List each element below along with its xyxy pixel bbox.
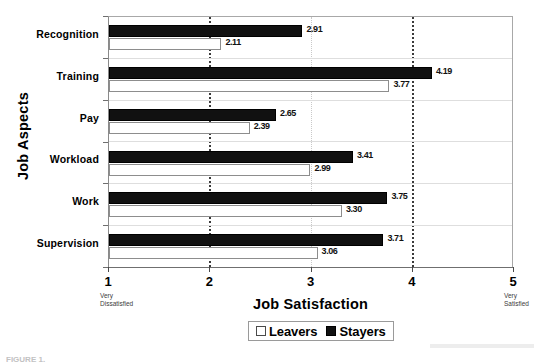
y-axis-tick (103, 58, 108, 59)
bar-value-label-leavers: 3.06 (322, 245, 338, 257)
y-tick-label-workload: Workload (50, 153, 99, 165)
bar-value-label-leavers: 2.11 (225, 36, 240, 48)
y-tick-label-work: Work (72, 195, 99, 207)
legend-label-leavers: Leavers (269, 324, 317, 339)
bar-leavers[interactable] (109, 247, 318, 259)
y-tick-label-pay: Pay (80, 112, 99, 124)
x-axis-tick-4 (412, 267, 413, 272)
bar-value-label-stayers: 2.65 (280, 107, 296, 119)
bar-leavers[interactable] (109, 205, 342, 217)
bar-group: 2.652.39 (109, 101, 512, 143)
scan-artifact (430, 344, 534, 348)
x-axis-tick-1 (108, 267, 109, 272)
legend-entry-leavers[interactable]: Leavers (256, 324, 317, 339)
legend-swatch-stayers-icon (326, 326, 336, 336)
legend-swatch-leavers-icon (256, 326, 266, 336)
bar-stayers[interactable] (109, 25, 302, 37)
bar-value-label-stayers: 3.41 (357, 149, 373, 161)
chart-figure: Job Aspects RecognitionTrainingPayWorklo… (0, 0, 540, 363)
x-axis-tick-5 (513, 267, 514, 272)
bar-value-label-stayers: 3.75 (391, 190, 407, 202)
bar-value-label-stayers: 2.91 (306, 23, 322, 35)
y-tick-label-supervision: Supervision (37, 237, 99, 249)
x-tick-label-1: 1 (104, 274, 111, 289)
x-tick-label-5: 5 (509, 274, 516, 289)
x-axis-tick-2 (209, 267, 210, 272)
y-axis-tick (103, 225, 108, 226)
x-axis-title: Job Satisfaction (108, 296, 513, 312)
y-axis-tick (103, 142, 108, 143)
y-axis-tick (103, 100, 108, 101)
legend-entry-stayers[interactable]: Stayers (326, 324, 385, 339)
bar-value-label-leavers: 2.99 (314, 162, 330, 174)
bar-stayers[interactable] (109, 67, 432, 79)
chart-legend[interactable]: Leavers Stayers (248, 321, 394, 341)
x-axis-tick-3 (311, 267, 312, 272)
bar-stayers[interactable] (109, 109, 276, 121)
x-tick-label-4: 4 (408, 274, 415, 289)
bar-value-label-leavers: 3.30 (346, 203, 362, 215)
bar-group: 2.912.11 (109, 17, 512, 59)
bar-stayers[interactable] (109, 234, 383, 246)
bar-leavers[interactable] (109, 164, 310, 176)
bar-value-label-leavers: 2.39 (254, 120, 270, 132)
legend-label-stayers: Stayers (339, 324, 385, 339)
x-tick-label-3: 3 (307, 274, 314, 289)
bar-leavers[interactable] (109, 80, 389, 92)
bar-group: 3.412.99 (109, 143, 512, 185)
y-axis-tick (103, 183, 108, 184)
bar-leavers[interactable] (109, 38, 221, 50)
bar-group: 3.753.30 (109, 184, 512, 226)
plot-area: 2.912.114.193.772.652.393.412.993.753.30… (108, 16, 513, 267)
x-tick-label-2: 2 (206, 274, 213, 289)
bar-value-label-stayers: 3.71 (387, 232, 403, 244)
bar-value-label-stayers: 4.19 (436, 65, 452, 77)
y-axis-tick-labels: RecognitionTrainingPayWorkloadWorkSuperv… (0, 16, 103, 267)
y-tick-label-training: Training (57, 70, 99, 82)
bar-group: 4.193.77 (109, 59, 512, 101)
bar-leavers[interactable] (109, 122, 250, 134)
y-tick-label-recognition: Recognition (36, 28, 99, 40)
bar-value-label-leavers: 3.77 (393, 78, 409, 90)
bar-group: 3.713.06 (109, 226, 512, 268)
y-axis-tick (103, 16, 108, 17)
figure-caption: FIGURE 1. (6, 355, 336, 363)
